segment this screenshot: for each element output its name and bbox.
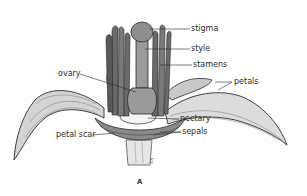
label-petal-scar: petal scar [56,131,96,139]
stigma [131,22,153,42]
ovary [128,88,157,114]
label-sepals: sepals [182,128,207,136]
label-stamens: stamens [193,61,227,69]
flower-diagram: ks stigma style stamens ovary petals nec… [0,0,307,196]
style [136,40,148,88]
label-stigma: stigma [191,25,218,33]
svg-text:ks: ks [149,158,155,164]
label-ovary: ovary [58,70,81,78]
figure-caption: A [137,178,142,186]
stem [126,140,152,165]
label-petals: petals [234,78,258,86]
flower-illustration: ks [0,0,307,196]
label-nectary: nectary [180,115,210,123]
label-style: style [191,45,210,53]
